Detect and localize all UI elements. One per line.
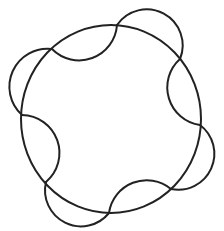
arc-inward-4: [22, 115, 59, 182]
arc-inward-1: [52, 25, 117, 60]
arc-outward-3: [45, 182, 109, 226]
scalloped-circle-drawing: [0, 0, 224, 231]
arc-inward-2: [167, 59, 200, 125]
arc-outward-4: [9, 49, 52, 115]
base-circle: [21, 25, 201, 213]
figure-canvas: Circle with alternating inward and outwa…: [0, 0, 224, 231]
